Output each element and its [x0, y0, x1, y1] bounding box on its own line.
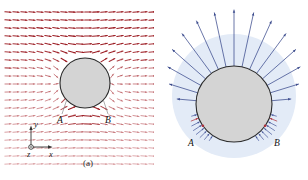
field-arrow [101, 43, 108, 45]
field-arrow [69, 139, 76, 141]
field-arrow [5, 147, 11, 149]
field-arrow [117, 91, 122, 93]
field-arrow [5, 131, 11, 133]
field-arrow [45, 99, 50, 101]
field-arrow [37, 75, 43, 77]
field-arrow [109, 19, 116, 21]
field-arrow [101, 19, 108, 21]
field-arrow [141, 99, 147, 101]
field-arrow [37, 11, 43, 13]
field-arrow [125, 115, 131, 117]
field-arrow [85, 139, 92, 141]
panel-a-plot: A B y x z [0, 0, 154, 180]
field-arrow [69, 147, 76, 149]
field-arrow [5, 115, 11, 117]
field-arrow [133, 107, 139, 109]
field-arrow [141, 67, 147, 69]
field-arrow [45, 115, 51, 117]
field-arrow [101, 58, 107, 62]
field-arrow [45, 67, 50, 69]
field-arrow [141, 163, 147, 165]
accent-mark-b [264, 125, 267, 128]
field-arrow [125, 91, 131, 93]
field-arrow [117, 67, 122, 69]
panel-b: A B (b) [154, 0, 308, 180]
field-arrow [29, 131, 35, 133]
field-arrow [13, 139, 19, 141]
field-arrow [29, 99, 35, 101]
field-arrow [29, 115, 35, 117]
field-arrow [69, 11, 76, 13]
field-arrow [76, 51, 84, 53]
field-arrow [125, 99, 131, 101]
field-arrow [53, 107, 59, 110]
axis-label-z: z [26, 149, 31, 159]
field-arrow [13, 147, 19, 149]
field-arrow [141, 123, 147, 125]
field-arrow [54, 74, 58, 77]
field-arrow [69, 19, 76, 21]
field-arrow [13, 99, 19, 101]
field-arrow [21, 11, 27, 13]
field-arrow [77, 27, 84, 29]
field-arrow [53, 155, 59, 157]
field-arrow [53, 98, 58, 101]
field-arrow [133, 139, 139, 141]
field-arrow [117, 155, 123, 157]
field-arrow [21, 27, 27, 29]
field-arrow [84, 43, 91, 45]
field-arrow [61, 131, 68, 133]
field-arrow [85, 131, 92, 133]
point-label-a: A [56, 115, 63, 125]
field-arrow [37, 131, 43, 133]
field-arrow [37, 91, 43, 93]
field-arrow [29, 51, 35, 53]
field-arrow [76, 43, 83, 45]
field-arrow [133, 67, 139, 69]
field-arrow [85, 147, 92, 149]
field-arrow [117, 35, 123, 37]
field-arrow [133, 75, 139, 77]
field-arrow [110, 74, 113, 78]
field-arrow [53, 35, 59, 37]
field-arrow [37, 139, 43, 141]
field-arrow [21, 131, 27, 133]
field-arrow [21, 59, 27, 61]
field-arrow [125, 123, 131, 125]
field-arrow [141, 43, 147, 45]
field-arrow [76, 115, 84, 117]
field-arrow [125, 67, 131, 69]
field-arrow [141, 19, 147, 21]
field-arrow [13, 155, 19, 157]
field-arrow [101, 11, 108, 13]
field-arrow [133, 163, 139, 165]
field-arrow [54, 90, 58, 93]
field-arrow [84, 123, 91, 125]
field-arrow [53, 51, 59, 53]
field-arrow [21, 83, 27, 85]
accent-mark-a [202, 125, 205, 128]
field-arrow [125, 131, 131, 133]
field-arrow [110, 83, 114, 85]
field-arrow [13, 75, 19, 77]
field-arrow [125, 27, 131, 29]
field-arrow [21, 43, 27, 45]
field-arrow [69, 43, 76, 45]
field-arrow [125, 59, 131, 61]
field-arrow [109, 43, 115, 45]
field-arrow [77, 147, 84, 149]
field-arrow [13, 123, 19, 125]
field-arrow [5, 19, 11, 21]
field-arrow [69, 35, 76, 37]
field-arrow [92, 123, 99, 125]
field-arrow [77, 155, 84, 157]
field-arrow [109, 139, 116, 141]
field-arrow [133, 91, 139, 93]
field-arrow [68, 106, 75, 109]
field-arrow [109, 58, 115, 61]
field-arrow [37, 19, 43, 21]
field-arrow [141, 147, 147, 149]
field-arrow [141, 83, 147, 85]
cylinder-body-b [196, 66, 272, 142]
field-arrow [45, 35, 51, 37]
